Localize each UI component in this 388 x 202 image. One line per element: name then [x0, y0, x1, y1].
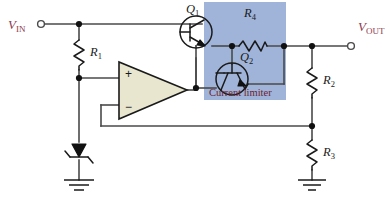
node-reference: [76, 75, 82, 81]
op-amp: + −: [119, 62, 187, 119]
node-divider-feedback: [309, 123, 315, 129]
node-q1-emitter: [193, 85, 199, 91]
opamp-minus-sign: −: [125, 100, 132, 114]
opamp-plus-sign: +: [125, 67, 132, 81]
ground-symbol-zener: [64, 180, 94, 190]
resistor-r2: [307, 68, 317, 98]
node-r4-left: [229, 43, 235, 49]
circuit-diagram: + − VIN VOUT R1 R2 R3 R4 Q1 Q2 Current l…: [0, 0, 388, 202]
resistor-r3: [307, 140, 317, 170]
terminal-vout-ring[interactable]: [348, 43, 355, 50]
resistor-r1: [74, 40, 84, 70]
label-q1: Q1: [186, 2, 199, 18]
terminal-vin-ring[interactable]: [38, 21, 45, 28]
label-vout: VOUT: [358, 19, 385, 36]
schematic-canvas: + − VIN VOUT R1 R2 R3 R4 Q1 Q2 Current l…: [0, 0, 388, 202]
label-vin: VIN: [8, 17, 26, 34]
node-r4-right: [281, 43, 287, 49]
ground-symbol-r3: [298, 180, 326, 190]
label-r1: R1: [89, 45, 102, 61]
node-vin-r1: [76, 21, 82, 27]
label-current-limiter: Current limiter: [209, 87, 272, 98]
label-r3: R3: [322, 145, 335, 161]
label-r2: R2: [322, 73, 335, 89]
node-vout-rail: [309, 43, 315, 49]
